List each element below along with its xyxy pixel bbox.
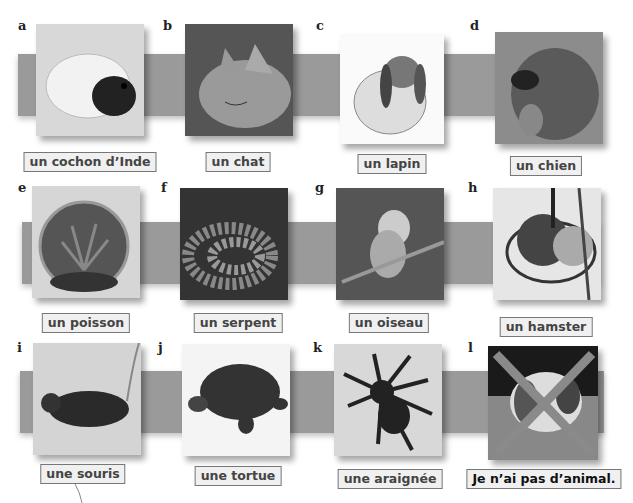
dog-photo <box>495 32 603 144</box>
item-label: une souris <box>40 464 125 484</box>
mouse-photo <box>33 343 141 455</box>
budgie-photo <box>336 188 444 300</box>
spider-photo <box>334 344 442 456</box>
item-letter: e <box>18 180 26 195</box>
item-label: une tortue <box>195 466 282 486</box>
fishbowl-photo <box>32 186 140 298</box>
item-letter: h <box>468 180 477 195</box>
cat-photo <box>185 24 293 136</box>
item-label: un chien <box>510 156 582 176</box>
item-letter: k <box>313 340 322 355</box>
item-label: un chat <box>206 152 271 172</box>
item-label: un lapin <box>357 154 426 174</box>
crossed-out-dog-photo <box>488 346 598 460</box>
item-label: un poisson <box>42 313 130 333</box>
item-label: une araignée <box>338 469 443 489</box>
item-label: un serpent <box>194 313 283 333</box>
item-letter: g <box>315 180 324 195</box>
tortoise-photo <box>182 344 290 456</box>
item-letter: a <box>18 18 26 33</box>
item-letter: c <box>316 18 324 33</box>
item-letter: f <box>161 180 167 195</box>
hamster-photo <box>493 188 601 300</box>
guinea-pig-photo <box>36 24 144 136</box>
decorative-line <box>74 484 84 503</box>
snake-photo <box>180 188 288 300</box>
item-letter: d <box>470 18 479 33</box>
item-letter: j <box>158 340 163 355</box>
item-label: un hamster <box>500 317 593 337</box>
item-label: un cochon d’Inde <box>24 152 157 172</box>
item-letter: b <box>163 18 172 33</box>
item-letter: i <box>17 340 22 355</box>
item-label: un oiseau <box>349 313 429 333</box>
item-letter: l <box>468 340 473 355</box>
item-label: Je n’ai pas d’animal. <box>466 469 621 489</box>
rabbit-photo <box>340 34 444 144</box>
